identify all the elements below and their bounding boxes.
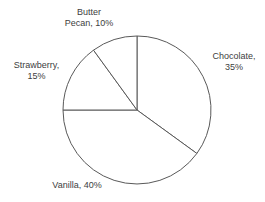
pie-label-strawberry-line1: Strawberry, [0, 60, 73, 71]
pie-label-chocolate-line2: 35% [203, 62, 265, 73]
pie-label-chocolate: Chocolate, 35% [203, 51, 265, 73]
pie-chart-figure: Butter Pecan, 10% Strawberry, 15% Chocol… [0, 0, 265, 202]
pie-label-vanilla: Vanilla, 40% [44, 180, 110, 191]
pie-label-butter-pecan: Butter Pecan, 10% [45, 7, 133, 29]
pie-chart-canvas [0, 0, 265, 202]
pie-label-butter-pecan-line2: Pecan, 10% [45, 18, 133, 29]
pie-label-butter-pecan-line1: Butter [45, 7, 133, 18]
pie-label-chocolate-line1: Chocolate, [203, 51, 265, 62]
pie-label-strawberry: Strawberry, 15% [0, 60, 73, 82]
pie-label-vanilla-line1: Vanilla, 40% [44, 180, 110, 191]
pie-slices [63, 36, 211, 184]
pie-label-strawberry-line2: 15% [0, 71, 73, 82]
